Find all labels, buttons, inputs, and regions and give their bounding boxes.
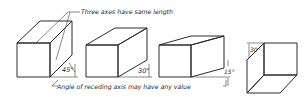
cube-1-front-face: [17, 43, 50, 77]
oblique-cubes-diagram: 45° Three axes have same length 30° 15° …: [0, 0, 308, 97]
top-caption: Three axes have same length: [81, 8, 173, 16]
cube-4-bottom-face: [247, 75, 297, 93]
cube-2-front-face: [86, 45, 118, 77]
cube-4-front-face: [264, 43, 297, 75]
cube-4-angle-label: 30°: [250, 46, 261, 53]
cube-3-angle-label: 15°: [224, 68, 235, 75]
cube-1-top-face: [17, 21, 72, 43]
bottom-caption: Angle of receding axis may have any valu…: [56, 83, 191, 91]
cube-30-degree-from-below: 30°: [247, 43, 297, 93]
cube-3-front-face: [159, 45, 191, 77]
cube-2-top-face: [86, 28, 147, 45]
cube-3-side-face: [191, 36, 224, 77]
cube-15-degree: 15°: [159, 36, 235, 86]
cube-45-degree: 45°: [17, 21, 78, 77]
cube-30-degree: 30°: [86, 28, 152, 77]
cube-2-angle-label: 30°: [138, 67, 150, 75]
cube-3-top-face: [159, 36, 224, 45]
top-caption-leaders: [36, 12, 80, 60]
cube-1-angle-label: 45°: [62, 66, 74, 74]
